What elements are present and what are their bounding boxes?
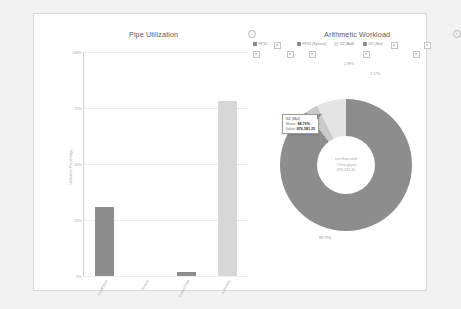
y-axis-tick-label: 25% xyxy=(74,219,81,223)
gridline: 100% xyxy=(84,52,248,53)
x-axis-tick-label: Load/Store xyxy=(96,279,108,296)
legend-item-label: I32 (Mul) xyxy=(369,42,383,46)
legend-toggle-checkbox[interactable] xyxy=(287,51,294,58)
tooltip-value-value: 876,581.25 xyxy=(297,127,315,131)
y-axis-tick-label: 0% xyxy=(76,275,81,279)
legend-toggle-checkbox[interactable] xyxy=(363,51,370,58)
tooltip-share-value: 88.79% xyxy=(297,122,310,126)
legend-swatch-icon xyxy=(334,42,338,46)
legend-item-label: I32 (Add) xyxy=(340,42,355,46)
arithmetic-workload-chart: Inst Executed / Throughput 876,234.30 88… xyxy=(262,62,432,287)
legend-item-label: FP32 (Special) xyxy=(303,42,327,46)
legend-toggle-checkbox[interactable] xyxy=(413,51,420,58)
tooltip-value-label: Value: xyxy=(286,127,296,131)
gridline: 0% xyxy=(84,276,248,277)
chart-legend: FP32 FP32 (Special) I32 (Add) I32 (Mul) xyxy=(253,42,458,60)
info-icon[interactable]: i xyxy=(453,30,461,38)
tooltip-value-row: Value: 876,581.25 xyxy=(286,127,316,132)
tooltip-share-label: Share: xyxy=(286,122,297,126)
dashboard-card: Pipe Utilization i Arithmetic Workload i… xyxy=(33,13,427,291)
legend-toggle-checkbox[interactable] xyxy=(391,42,398,49)
bar[interactable] xyxy=(177,272,196,276)
bar[interactable] xyxy=(218,101,237,276)
legend-item-fp32-special[interactable]: FP32 (Special) xyxy=(297,42,326,46)
slice-label: 7.17% xyxy=(370,72,380,76)
legend-item-label: FP32 xyxy=(259,42,268,46)
arithmetic-workload-title: Arithmetic Workload xyxy=(324,30,390,39)
donut-center-text: Inst Executed / Throughput 876,234.30 xyxy=(318,157,374,174)
bar-plot-area: 0%25%50%75%100%Load/StoreTextureControl … xyxy=(83,52,248,277)
pipe-utilization-chart: Utilization Percentage 0%25%50%75%100%Lo… xyxy=(46,44,256,289)
bar[interactable] xyxy=(95,207,114,276)
legend-toggle-checkbox[interactable] xyxy=(309,51,316,58)
x-axis-tick-label: Control Flow xyxy=(177,279,190,298)
y-axis-title: Utilization Percentage xyxy=(69,149,73,184)
legend-item-i32-mul[interactable]: I32 (Mul) xyxy=(363,42,383,46)
chart-tooltip: I32 (Mul) Share: 88.79% Value: 876,581.2… xyxy=(282,114,319,134)
legend-toggle-checkbox[interactable] xyxy=(274,42,281,49)
y-axis-tick-label: 50% xyxy=(74,163,81,167)
legend-swatch-icon xyxy=(297,42,301,46)
slice-label: 2.99% xyxy=(344,62,354,66)
legend-toggle-checkbox[interactable] xyxy=(424,42,431,49)
pipe-utilization-title: Pipe Utilization xyxy=(129,30,178,39)
y-axis-tick-label: 75% xyxy=(74,107,81,111)
x-axis-tick-label: Arithmetic xyxy=(220,279,231,295)
info-icon[interactable]: i xyxy=(248,30,256,38)
donut-center-line-3: 876,234.30 xyxy=(318,168,374,174)
tooltip-arrow-icon xyxy=(317,114,322,120)
legend-item-i32-add[interactable]: I32 (Add) xyxy=(334,42,354,46)
y-axis-tick-label: 100% xyxy=(72,51,81,55)
x-axis-tick-label: Texture xyxy=(140,279,149,291)
slice-label: 88.79% xyxy=(319,236,331,240)
legend-swatch-icon xyxy=(363,42,367,46)
